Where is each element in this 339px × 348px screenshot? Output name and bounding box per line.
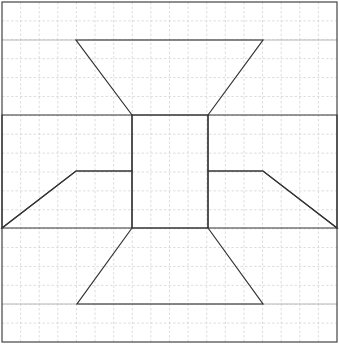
quilt-diagram	[0, 0, 339, 348]
bottom-trapezoid	[77, 228, 263, 304]
right-arrow-lower	[208, 171, 337, 228]
center-rectangle	[132, 115, 208, 228]
left-arrow-lower	[2, 171, 132, 228]
grid	[2, 2, 337, 342]
